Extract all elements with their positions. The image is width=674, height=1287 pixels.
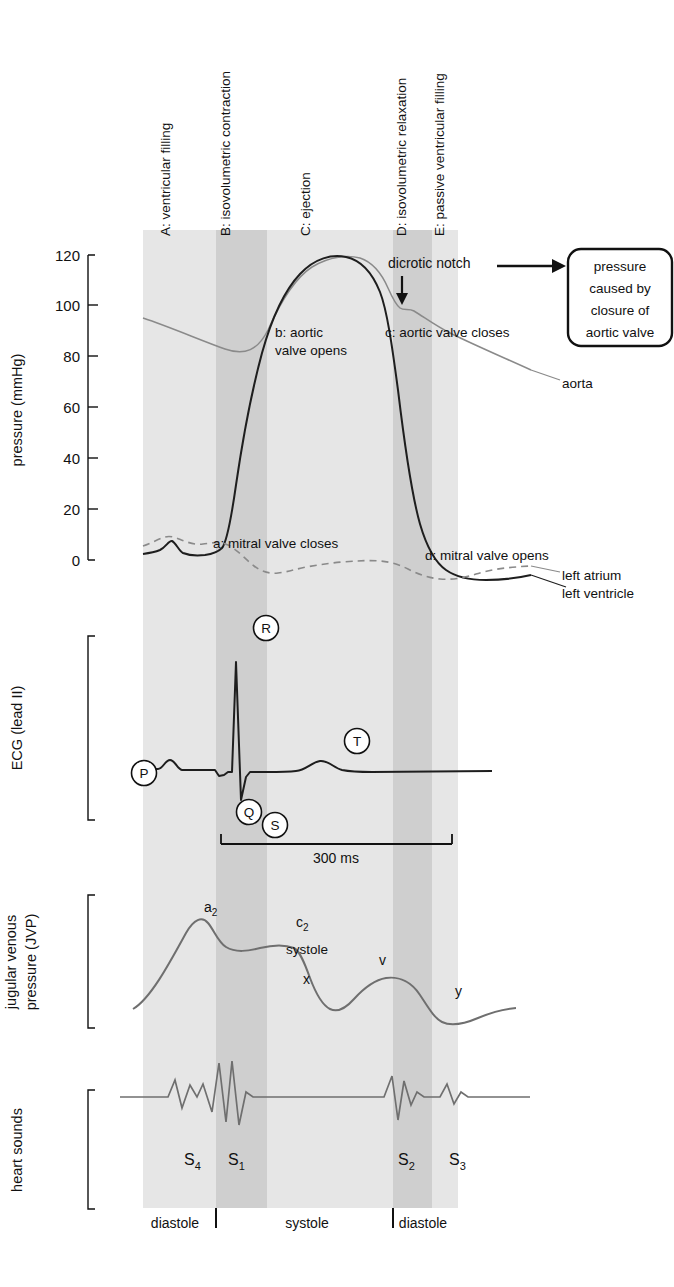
wiggers-diagram-figure: A: ventricular fillingB: isovolumetric c…: [0, 0, 674, 1287]
pressure-tick-120: 120: [55, 247, 80, 264]
phase-band-B: [216, 230, 267, 1208]
label-left-ventricle: left ventricle: [562, 586, 634, 601]
callout-line-1: pressure: [594, 259, 647, 274]
callout-line-2: caused by: [589, 281, 651, 296]
jvp-wave-y-label: y: [455, 983, 462, 999]
label-a-mitral-valve-closes: a: mitral valve closes: [213, 536, 339, 551]
callout-box: pressure caused by closure of aortic val…: [568, 249, 672, 346]
callout-line-3: closure of: [591, 303, 650, 318]
heart-sounds-axis-title: heart sounds: [9, 1108, 25, 1192]
cycle-segment-2-diastole: diastole: [399, 1215, 447, 1231]
diagram-canvas: A: ventricular fillingB: isovolumetric c…: [0, 0, 674, 1287]
phase-label-D: D: isovolumetric relaxation: [394, 78, 409, 236]
label-left-atrium: left atrium: [562, 568, 621, 583]
phase-label-A: A: ventricular filling: [158, 123, 173, 236]
ecg-wave-P-label: P: [139, 766, 148, 781]
phase-band-A: [143, 230, 216, 1208]
jvp-wave-v-label: v: [379, 952, 386, 968]
ecg-wave-T-label: T: [353, 734, 361, 749]
ecg-wave-P: P: [132, 761, 157, 786]
jvp-systole-label: systole: [286, 942, 328, 957]
label-dicrotic-notch: dicrotic notch: [388, 255, 470, 271]
pressure-tick-0: 0: [72, 552, 80, 569]
phase-label-B: B: isovolumetric contraction: [218, 71, 233, 236]
phase-band-E: [432, 230, 458, 1208]
pressure-tick-80: 80: [63, 348, 80, 365]
pressure-tick-40: 40: [63, 450, 80, 467]
ecg-wave-Q: Q: [237, 800, 262, 825]
pressure-tick-60: 60: [63, 399, 80, 416]
cycle-axis-labels: diastolesystolediastole: [151, 1215, 447, 1231]
ecg-wave-R: R: [254, 616, 279, 641]
jvp-axis-title-line1: jugular venous: [3, 915, 19, 1010]
ecg-wave-Q-label: Q: [244, 805, 255, 820]
phase-bands: [143, 230, 458, 1208]
label-b-aortic-valve-opens-line1: b: aortic: [275, 325, 323, 340]
pressure-axis-title: pressure (mmHg): [9, 354, 25, 467]
cycle-segment-1-systole: systole: [285, 1215, 329, 1231]
label-d-mitral-valve-opens: d: mitral valve opens: [425, 548, 549, 563]
ecg-wave-T: T: [345, 729, 370, 754]
jvp-axis-title-line2: pressure (JVP): [23, 914, 39, 1011]
ecg-wave-R-label: R: [261, 621, 271, 636]
pressure-tick-100: 100: [55, 297, 80, 314]
phase-label-C: C: ejection: [298, 172, 313, 236]
pressure-tick-20: 20: [63, 501, 80, 518]
ecg-axis-title: ECG (lead II): [9, 686, 25, 771]
phase-band-C: [267, 230, 393, 1208]
label-c-aortic-valve-closes: c: aortic valve closes: [385, 325, 510, 340]
cycle-segment-0-diastole: diastole: [151, 1215, 199, 1231]
ecg-interval-label: 300 ms: [313, 850, 359, 866]
label-b-aortic-valve-opens-line2: valve opens: [275, 343, 347, 358]
ecg-wave-S-label: S: [270, 818, 279, 833]
jvp-wave-x-label: x: [303, 971, 310, 987]
phase-band-D: [393, 230, 432, 1208]
phase-label-E: E: passive ventricular filling: [432, 73, 447, 236]
callout-line-4: aortic valve: [586, 325, 654, 340]
ecg-wave-S: S: [263, 813, 288, 838]
label-aorta: aorta: [562, 376, 593, 391]
